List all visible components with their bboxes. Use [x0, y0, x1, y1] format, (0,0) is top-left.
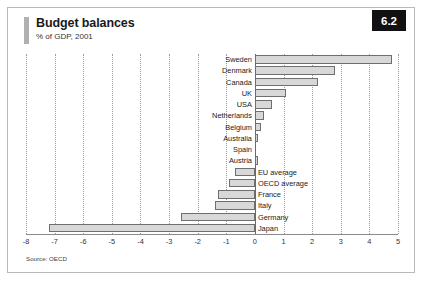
chart-bar-row: France: [26, 189, 398, 200]
page-title: Budget balances: [36, 16, 135, 30]
x-tick-label: 3: [339, 237, 343, 246]
chart-bar-row: Italy: [26, 200, 398, 211]
chart-bar-row: Austria: [26, 155, 398, 166]
category-label: UK: [242, 88, 252, 99]
chart-bar: [49, 224, 255, 233]
category-label: Australia: [223, 133, 252, 144]
category-label: Japan: [258, 223, 278, 234]
x-tick-label: -7: [51, 237, 58, 246]
x-tick-label: -4: [137, 237, 144, 246]
figure-number-badge: 6.2: [372, 10, 406, 31]
chart-bar: [255, 100, 272, 109]
x-tick-label: -8: [23, 237, 30, 246]
x-tick-label: 5: [396, 237, 400, 246]
category-label: Spain: [233, 144, 252, 155]
x-axis: -8-7-6-5-4-3-2-1012345: [26, 234, 398, 252]
chart-bar-row: Australia: [26, 133, 398, 144]
chart-bar-row: Sweden: [26, 54, 398, 65]
chart-bar-row: Netherlands: [26, 110, 398, 121]
category-label: Sweden: [225, 54, 252, 65]
x-tick-label: 1: [281, 237, 285, 246]
chart-bar: [255, 134, 258, 143]
category-label: OECD average: [258, 178, 308, 189]
x-tick-label: -5: [109, 237, 116, 246]
chart-bar-row: Germany: [26, 212, 398, 223]
chart-plot-area: SwedenDenmarkCanadaUKUSANetherlandsBelgi…: [26, 54, 398, 234]
x-tick-label: -2: [194, 237, 201, 246]
chart-bar-row: UK: [26, 88, 398, 99]
category-label: EU average: [258, 167, 297, 178]
chart-header: Budget balances % of GDP, 2001 6.2: [8, 8, 414, 52]
chart-bar: [255, 89, 286, 98]
chart-bar: [255, 55, 392, 64]
chart-bar: [255, 66, 335, 75]
chart-bar: [218, 190, 255, 199]
x-tick-label: -6: [80, 237, 87, 246]
chart-bar: [215, 201, 255, 210]
category-label: France: [258, 189, 281, 200]
category-label: Germany: [258, 212, 288, 223]
chart-bar-row: Japan: [26, 223, 398, 234]
chart-bar: [255, 111, 264, 120]
category-label: Canada: [226, 77, 252, 88]
chart-bar: [181, 213, 255, 222]
chart-bar-row: Canada: [26, 77, 398, 88]
chart-bar-row: Spain: [26, 144, 398, 155]
title-accent-bar: [24, 17, 29, 44]
x-axis-line: [26, 234, 398, 235]
source-note: Source: OECD: [26, 255, 67, 262]
category-label: Austria: [229, 155, 252, 166]
chart-bar-row: USA: [26, 99, 398, 110]
chart-card: Budget balances % of GDP, 2001 6.2 Swede…: [7, 7, 415, 273]
chart-bar: [255, 78, 318, 87]
chart-bar: [235, 168, 255, 177]
category-label: USA: [237, 99, 252, 110]
chart-subtitle: % of GDP, 2001: [36, 32, 93, 41]
chart-bar: [229, 179, 255, 188]
chart-bar-row: Denmark: [26, 65, 398, 76]
x-tick-label: -3: [166, 237, 173, 246]
chart-bar-row: Belgium: [26, 122, 398, 133]
category-label: Italy: [258, 200, 272, 211]
gridline: [398, 54, 399, 234]
chart-bar: [255, 156, 258, 165]
category-label: Denmark: [222, 65, 252, 76]
chart-bar: [255, 123, 261, 132]
category-label: Belgium: [225, 122, 252, 133]
x-tick-label: 2: [310, 237, 314, 246]
category-label: Netherlands: [212, 110, 252, 121]
x-tick-label: -1: [223, 237, 230, 246]
chart-bar-row: EU average: [26, 167, 398, 178]
x-tick-label: 0: [253, 237, 257, 246]
x-tick-label: 4: [367, 237, 371, 246]
chart-bar-row: OECD average: [26, 178, 398, 189]
